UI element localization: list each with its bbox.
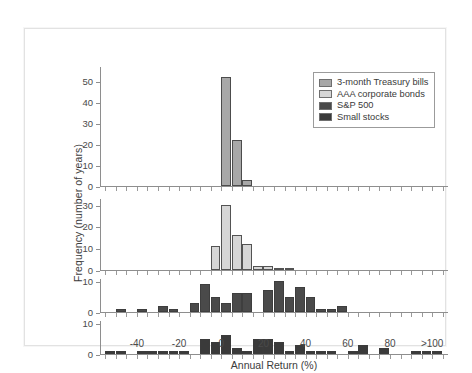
x-axis-tick-labels: -40-20020406080>100: [100, 338, 448, 352]
bar: [190, 303, 200, 312]
bar: [232, 140, 242, 186]
figure-frame: Frequency (number of years) 010203040500…: [24, 28, 446, 346]
bar: [263, 290, 273, 312]
chart-panel: 010: [100, 279, 448, 313]
bar: [221, 303, 231, 312]
bar: [169, 309, 179, 312]
bar: [221, 205, 231, 270]
y-axis-tick-label: 10: [82, 244, 93, 254]
y-axis-tick-label: 0: [88, 308, 93, 318]
legend-item: S&P 500: [319, 100, 428, 112]
x-axis-tick-label: 60: [342, 338, 353, 349]
legend-swatch-icon: [319, 90, 332, 98]
legend-item: Small stocks: [319, 112, 428, 124]
legend-item: AAA corporate bonds: [319, 89, 428, 101]
y-axis-tick-label: 30: [82, 119, 93, 129]
bar: [316, 309, 326, 312]
bar: [211, 297, 221, 312]
y-axis-tick-label: 0: [88, 266, 93, 276]
bar: [116, 309, 126, 312]
bar: [295, 287, 305, 312]
x-axis-ticks: [100, 187, 448, 191]
bar: [200, 284, 210, 312]
legend-swatch-icon: [319, 79, 332, 87]
y-axis-tick-label: 30: [82, 201, 93, 211]
bar: [306, 297, 316, 312]
y-axis-tick-label: 10: [82, 277, 93, 287]
y-axis-tick-label: 40: [82, 98, 93, 108]
bar: [242, 244, 252, 270]
bar: [137, 309, 147, 312]
x-axis-tick-label: >100: [421, 338, 444, 349]
legend: 3-month Treasury billsAAA corporate bond…: [313, 72, 435, 128]
y-axis-tick-label: 20: [82, 223, 93, 233]
x-axis-tick-label: -20: [172, 338, 186, 349]
bar: [274, 281, 284, 312]
bar: [274, 268, 284, 270]
bar: [327, 309, 337, 312]
x-axis-tick-label: 80: [384, 338, 395, 349]
bar: [285, 297, 295, 312]
bar: [285, 268, 295, 270]
bar: [232, 235, 242, 270]
legend-swatch-icon: [319, 113, 332, 121]
x-axis-tick-label: 40: [300, 338, 311, 349]
legend-item: 3-month Treasury bills: [319, 77, 428, 89]
y-axis-tick-label: 0: [88, 182, 93, 192]
bar: [232, 293, 242, 312]
legend-label: Small stocks: [337, 113, 389, 122]
bar: [242, 180, 252, 186]
legend-label: S&P 500: [337, 101, 374, 110]
chart-panel: 0102030: [100, 199, 448, 271]
x-axis-ticks: [100, 271, 448, 275]
bar: [253, 266, 263, 270]
bar: [242, 293, 252, 312]
x-axis-tick-label: 20: [258, 338, 269, 349]
y-axis-tick-label: 10: [82, 319, 93, 329]
y-axis-tick-label: 50: [82, 77, 93, 87]
y-axis-tick-label: 0: [88, 350, 93, 360]
bar: [211, 246, 221, 270]
bar: [337, 306, 347, 312]
y-axis-tick-label: 20: [82, 140, 93, 150]
bar-group: [100, 198, 448, 270]
x-axis-tick-label: 0: [218, 338, 224, 349]
x-axis-title: Annual Return (%): [100, 359, 448, 371]
x-axis-ticks: [100, 313, 448, 317]
bar: [221, 77, 231, 186]
legend-swatch-icon: [319, 102, 332, 110]
bar: [158, 306, 168, 312]
y-axis-title: Frequency (number of years): [72, 98, 84, 328]
y-axis-tick-label: 10: [82, 161, 93, 171]
legend-label: 3-month Treasury bills: [337, 78, 428, 87]
x-axis-tick-label: -40: [130, 338, 144, 349]
figure-root: Frequency (number of years) 010203040500…: [0, 0, 472, 373]
bar: [263, 266, 273, 270]
legend-label: AAA corporate bonds: [337, 90, 425, 99]
bar-group: [100, 278, 448, 312]
